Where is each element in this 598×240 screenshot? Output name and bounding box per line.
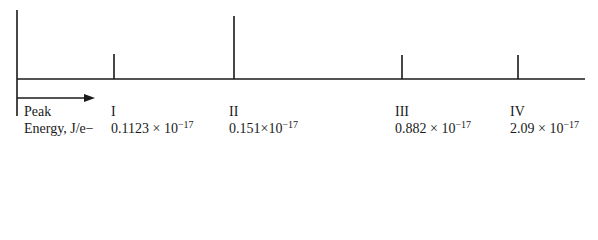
peak-label-i: I — [111, 104, 116, 120]
energy-mantissa: 0.882 — [395, 121, 427, 136]
peak-energy-iv: 2.09 × 10−17 — [510, 121, 579, 138]
energy-base: 10 — [164, 121, 178, 136]
peak-label-iv: IV — [510, 104, 525, 120]
peak-label-ii: II — [229, 104, 238, 120]
energy-base: 10 — [549, 121, 563, 136]
energy-mantissa: 0.151 — [229, 121, 261, 136]
energy-exponent: −17 — [563, 119, 579, 130]
energy-exponent: −17 — [282, 119, 298, 130]
axis-label-peak: Peak — [24, 104, 51, 120]
peak-energy-i: 0.1123 × 10−17 — [111, 121, 194, 138]
times-sign: × — [152, 121, 160, 136]
energy-mantissa: 0.1123 — [111, 121, 149, 136]
energy-mantissa: 2.09 — [510, 121, 535, 136]
peak-energy-ii: 0.151×10−17 — [229, 121, 298, 138]
axis-label-energy: Energy, J/e− — [24, 121, 94, 137]
times-sign: × — [430, 121, 438, 136]
energy-base: 10 — [268, 121, 282, 136]
energy-exponent: −17 — [455, 119, 471, 130]
peak-label-iii: III — [395, 104, 409, 120]
energy-base: 10 — [441, 121, 455, 136]
direction-arrow-icon — [17, 94, 95, 102]
times-sign: × — [538, 121, 546, 136]
peak-energy-iii: 0.882 × 10−17 — [395, 121, 471, 138]
energy-exponent: −17 — [178, 119, 194, 130]
